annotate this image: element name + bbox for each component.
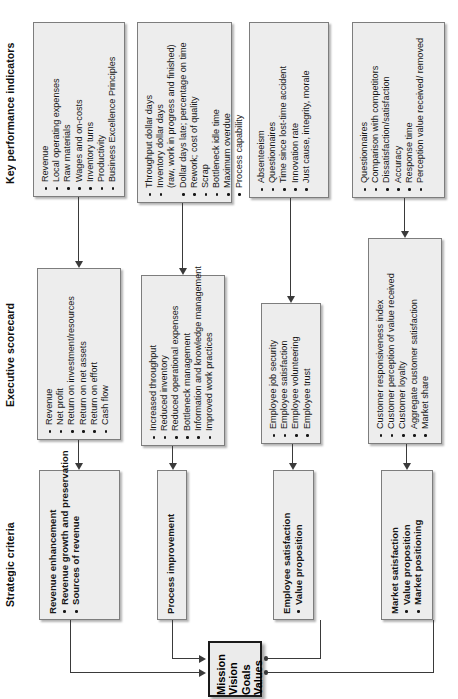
kpi-list-revenue: Revenue Local operating expenses Raw mat… [40, 30, 118, 191]
list-item: Just cause, integrity, morale [301, 30, 312, 192]
list-item: Innovation rate [290, 30, 301, 192]
arrowhead [75, 261, 83, 268]
list-item: Reduced inventory [159, 283, 170, 440]
criteria-list-revenue: Revenue enhancement Revenue growth and p… [47, 478, 82, 614]
arrowhead [287, 296, 295, 303]
scorecard-box-employee: Employee job security Employee satisfact… [261, 303, 321, 444]
kpi-box-process: Throughput dollar days Inventory dollar … [137, 22, 232, 203]
kpi-list-process: Throughput dollar days Inventory dollar … [144, 30, 245, 197]
criteria-box-market-satisfaction: Market satisfaction Value proposition Ma… [381, 470, 433, 620]
list-item: Local operating expenses [51, 30, 62, 191]
core-line: Goals [240, 647, 252, 695]
arrowhead [179, 268, 187, 275]
connector-scorecard-to-criteria-revenue [78, 440, 79, 463]
list-item: Dollar days late; percentage on time [178, 30, 189, 197]
arrowhead [401, 231, 409, 238]
list-item: Value proposition [293, 478, 305, 614]
list-item: Employee volunteering [290, 311, 301, 438]
list-item: Employee job security [268, 311, 279, 438]
connector-criteria-process-down [172, 620, 173, 659]
list-item: Increased throughput [148, 283, 159, 440]
connector-scorecard-to-criteria-process [172, 446, 173, 463]
band-label-executive-scorecard: Executive scorecard [4, 280, 18, 430]
core-line: Mission [215, 647, 227, 695]
list-item: Return on net assets [78, 276, 89, 434]
list-item: Revenue growth and preservation [59, 478, 71, 614]
list-item: Bottleneck idle time [211, 30, 222, 197]
list-item: Bottleneck management [182, 283, 193, 440]
connector-scorecard-to-criteria-employee [292, 444, 293, 463]
core-line: Values [252, 647, 264, 695]
list-item: Perception value received/ removed [415, 30, 426, 192]
arrowhead [75, 463, 83, 470]
connector-kpi-to-scorecard-employee [290, 198, 291, 296]
list-item: Inventory dollar days [155, 30, 166, 197]
list-item: Rework; cost of quality [189, 30, 200, 197]
connector-criteria-process-across [172, 658, 201, 659]
list-item: Market share [420, 246, 431, 438]
criteria-list-process: Process improvement [165, 478, 177, 614]
connector-core-to-employee-up [320, 620, 321, 659]
connector-criteria-revenue-across [70, 672, 201, 673]
list-item: Questionnaires [267, 30, 278, 192]
list-item: Revenue [44, 276, 55, 434]
list-item: Absenteeism [256, 30, 267, 192]
list-item: Market positioning [412, 478, 424, 614]
list-item: Process capability [234, 30, 245, 197]
list-item: Business Excellence Principles [107, 30, 118, 191]
criteria-heading: Revenue enhancement [47, 478, 59, 614]
list-item: Customer responsiveness index [375, 246, 386, 438]
mission-vision-goals-values-box: Mission Vision Goals Values [208, 641, 262, 697]
list-item: Return on effort [89, 276, 100, 434]
kpi-list-market: Questionnaires Comparison with competito… [359, 30, 426, 192]
scorecard-list-revenue: Revenue Net profit Return on investment/… [44, 276, 111, 434]
list-item: Employee trust [302, 311, 313, 438]
connector-kpi-to-scorecard-process [182, 203, 183, 268]
list-item: Inventory turns [85, 30, 96, 191]
list-item: Response time [404, 30, 415, 192]
arrowhead [169, 463, 177, 470]
connector-kpi-to-scorecard-revenue [78, 197, 79, 261]
list-item: Aggregate customer satisfaction [409, 246, 420, 438]
criteria-list-market: Market satisfaction Value proposition Ma… [389, 478, 424, 614]
list-item: Dissatisfaction/satisfaction [381, 30, 392, 192]
list-item: Questionnaires [359, 30, 370, 192]
connector-dot [264, 656, 268, 660]
list-item: Employee satisfaction [279, 311, 290, 438]
list-item: Return on investment/resources [66, 276, 77, 434]
arrowhead [199, 669, 206, 677]
list-item: Value proposition [401, 478, 413, 614]
list-item: Scrap [200, 30, 211, 197]
list-item: Information and knowledge management [193, 283, 204, 440]
scorecard-list-market: Customer responsiveness index Customer p… [375, 246, 431, 438]
kpi-box-revenue: Revenue Local operating expenses Raw mat… [33, 22, 125, 197]
connector-scorecard-to-criteria-market [406, 444, 407, 463]
list-item: Revenue [40, 30, 51, 191]
connector-dot [264, 670, 268, 674]
list-item: Sources of revenue [70, 478, 82, 614]
list-item: Cash flow [100, 276, 111, 434]
connector-core-to-market-across [266, 672, 434, 673]
list-item: Accuracy [393, 30, 404, 192]
list-item: Productivity [96, 30, 107, 191]
criteria-heading: Process improvement [165, 478, 177, 614]
scorecard-box-process: Increased throughput Reduced inventory R… [141, 275, 225, 446]
list-item: Net profit [55, 276, 66, 434]
arrowhead [289, 463, 297, 470]
list-item: Maximum overdue [222, 30, 233, 197]
list-item: Customer perception of value received [386, 246, 397, 438]
connector-core-to-market-up [433, 620, 434, 673]
list-item-continuation: (raw, work in progress and finished) [166, 30, 177, 197]
list-item: Throughput dollar days [144, 30, 155, 197]
kpi-box-employee: Absenteeism Questionnaires Time since lo… [249, 22, 329, 198]
kpi-list-employee: Absenteeism Questionnaires Time since lo… [256, 30, 312, 192]
criteria-box-process-improvement: Process improvement [157, 470, 187, 620]
criteria-heading: Market satisfaction [389, 478, 401, 614]
band-label-strategic-criteria: Strategic criteria [4, 500, 18, 630]
connector-kpi-to-scorecard-market [404, 198, 405, 231]
criteria-box-employee-satisfaction: Employee satisfaction Value proposition [273, 470, 314, 620]
scorecard-list-employee: Employee job security Employee satisfact… [268, 311, 313, 438]
scorecard-box-market: Customer responsiveness index Customer p… [368, 238, 442, 444]
criteria-list-employee: Employee satisfaction Value proposition [281, 478, 304, 614]
